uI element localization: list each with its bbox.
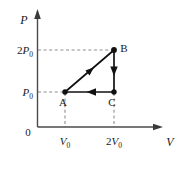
point-label-a: A <box>59 96 67 108</box>
pv-diagram-figure: P V 0 2P0 P0 V0 2V0 A B C <box>0 0 187 169</box>
ytick-label-2p0: 2P0 <box>17 44 33 59</box>
pressure-axis-arrowhead <box>34 9 41 19</box>
volume-axis-label: V <box>166 135 175 149</box>
xtick-label-2v0: 2V0 <box>106 135 122 150</box>
xtick-2v0-subscript: 0 <box>118 141 122 150</box>
point-a-marker <box>62 89 67 94</box>
ytick-p0-subscript: 0 <box>29 92 33 101</box>
ytick-label-p0: P0 <box>22 86 34 101</box>
labels-group: P V 0 2P0 P0 V0 2V0 A B C <box>17 13 175 150</box>
point-label-c: C <box>108 96 115 108</box>
process-b-to-c-arrowhead <box>110 67 117 77</box>
pv-diagram-canvas: P V 0 2P0 P0 V0 2V0 A B C <box>0 0 187 169</box>
xtick-v0-subscript: 0 <box>66 141 70 150</box>
guide-lines-group <box>38 50 114 127</box>
origin-label: 0 <box>25 126 31 138</box>
ytick-2p0-subscript: 0 <box>29 50 33 59</box>
point-c-marker <box>111 89 116 94</box>
xtick-label-v0: V0 <box>60 135 71 150</box>
axes-group <box>34 9 163 130</box>
pressure-axis-label: P <box>19 13 28 27</box>
point-b-marker <box>111 47 117 53</box>
point-label-b: B <box>120 42 127 54</box>
process-c-to-a-arrowhead <box>87 88 97 95</box>
process-paths-group <box>65 50 118 96</box>
volume-axis-arrowhead <box>153 124 163 131</box>
